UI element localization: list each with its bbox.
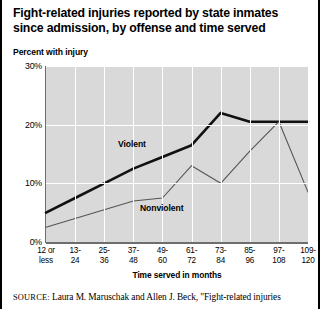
- series-line-violent: [46, 113, 308, 213]
- x-tick-label: 97-108: [264, 246, 294, 265]
- plot-area: [46, 66, 308, 242]
- x-tick-label: 25-36: [89, 246, 119, 265]
- x-tick-label: 73-84: [206, 246, 236, 265]
- gridline-vertical: [192, 66, 193, 242]
- source-note: SOURCE: Laura M. Maruschak and Allen J. …: [13, 292, 313, 303]
- figure-frame: Fight-related injuries reported by state…: [0, 0, 320, 309]
- series-label-nonviolent: Nonviolent: [140, 203, 183, 213]
- gridline-vertical: [279, 66, 280, 242]
- source-text: Laura M. Maruschak and Allen J. Beck, "F…: [52, 292, 281, 302]
- x-tick-label: 49-60: [147, 246, 177, 265]
- gridline-vertical: [221, 66, 222, 242]
- source-label: SOURCE:: [13, 293, 50, 302]
- gridline-vertical: [250, 66, 251, 242]
- x-tick-label: 12 orless: [31, 246, 61, 265]
- gridline-horizontal: [46, 66, 308, 67]
- gridline-vertical: [104, 66, 105, 242]
- x-axis-ticks: 12 orless13-2425-3637-4849-6061-7273-848…: [46, 246, 308, 270]
- x-tick-label: 109-120: [293, 246, 320, 265]
- gridline-vertical: [308, 66, 309, 242]
- gridline-vertical: [133, 66, 134, 242]
- page-title: Fight-related injuries reported by state…: [13, 6, 309, 35]
- x-tick-label: 85-96: [235, 246, 265, 265]
- x-tick-label: 37-48: [118, 246, 148, 265]
- x-axis-line: [46, 242, 308, 244]
- x-tick-label: 13-24: [60, 246, 90, 265]
- y-tick-label: 20%: [4, 120, 42, 130]
- series-lines: [46, 66, 308, 242]
- y-tick-label: 30%: [4, 61, 42, 71]
- x-tick-label: 61-72: [177, 246, 207, 265]
- x-axis-title: Time served in months: [46, 270, 308, 280]
- gridline-vertical: [75, 66, 76, 242]
- y-tick-label: 10%: [4, 178, 42, 188]
- series-label-violent: Violent: [118, 139, 146, 149]
- gridline-vertical: [162, 66, 163, 242]
- gridline-horizontal: [46, 183, 308, 184]
- gridline-horizontal: [46, 125, 308, 126]
